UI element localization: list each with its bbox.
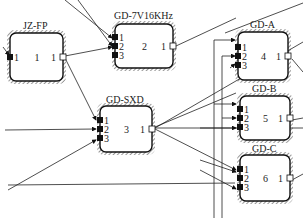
input-port[interactable] bbox=[112, 43, 118, 49]
connection[interactable] bbox=[8, 140, 96, 190]
input-port[interactable] bbox=[112, 52, 118, 58]
connection[interactable] bbox=[8, 183, 235, 185]
input-port[interactable] bbox=[237, 106, 243, 112]
output-label: 1 bbox=[140, 124, 145, 135]
output-port[interactable] bbox=[170, 43, 176, 49]
block-index: 4 bbox=[261, 51, 266, 62]
input-port[interactable] bbox=[235, 44, 241, 50]
port-label: 3 bbox=[104, 133, 109, 144]
input-port[interactable] bbox=[237, 184, 243, 190]
block-gdb[interactable]: GD-B12351 bbox=[237, 83, 293, 143]
block-title: GD-SXD bbox=[106, 94, 144, 105]
block-title: GD-C bbox=[252, 143, 277, 154]
input-port[interactable] bbox=[97, 117, 103, 123]
input-port[interactable] bbox=[235, 62, 241, 68]
input-port[interactable] bbox=[237, 166, 243, 172]
output-label: 1 bbox=[278, 173, 283, 184]
output-label: 1 bbox=[51, 52, 56, 63]
block-gdsxd[interactable]: GD-SXD12331 bbox=[97, 94, 155, 155]
output-port[interactable] bbox=[287, 175, 293, 181]
block-index: 3 bbox=[124, 124, 129, 135]
block-title: GD-7V16KHz bbox=[114, 10, 173, 21]
block-title: GD-A bbox=[250, 19, 276, 30]
input-port[interactable] bbox=[97, 135, 103, 141]
input-port[interactable] bbox=[237, 115, 243, 121]
input-port[interactable] bbox=[235, 53, 241, 59]
output-port[interactable] bbox=[285, 53, 291, 59]
input-port[interactable] bbox=[7, 54, 13, 60]
diagram-canvas: JZ-FP111GD-7V16KHz12321GD-A12341GD-SXD12… bbox=[0, 0, 303, 218]
output-port[interactable] bbox=[287, 115, 293, 121]
connection[interactable] bbox=[155, 129, 236, 170]
port-label: 3 bbox=[242, 60, 247, 71]
output-label: 1 bbox=[276, 51, 281, 62]
input-port[interactable] bbox=[237, 175, 243, 181]
connection[interactable] bbox=[78, 0, 112, 46]
block-gdc[interactable]: GD-C12361 bbox=[237, 143, 293, 204]
block-gda[interactable]: GD-A12341 bbox=[235, 19, 291, 83]
block-gd7v[interactable]: GD-7V16KHz12321 bbox=[112, 10, 176, 71]
block-title: GD-B bbox=[252, 83, 277, 94]
connection[interactable] bbox=[155, 93, 236, 127]
connection[interactable] bbox=[5, 129, 96, 130]
connection[interactable] bbox=[65, 58, 96, 120]
input-port[interactable] bbox=[112, 34, 118, 40]
connection[interactable] bbox=[65, 47, 112, 56]
port-label: 1 bbox=[14, 52, 19, 63]
port-label: 3 bbox=[244, 122, 249, 133]
block-index: 1 bbox=[35, 52, 40, 63]
block-index: 2 bbox=[142, 41, 147, 52]
output-port[interactable] bbox=[149, 126, 155, 132]
block-index: 6 bbox=[263, 173, 268, 184]
block-jzfp[interactable]: JZ-FP111 bbox=[7, 20, 66, 84]
block-index: 5 bbox=[263, 113, 268, 124]
input-port[interactable] bbox=[237, 124, 243, 130]
port-label: 3 bbox=[244, 182, 249, 193]
connection[interactable] bbox=[65, 0, 112, 38]
block-title: JZ-FP bbox=[23, 20, 48, 31]
output-port[interactable] bbox=[60, 54, 66, 60]
output-label: 1 bbox=[161, 41, 166, 52]
port-label: 3 bbox=[119, 50, 124, 61]
input-port[interactable] bbox=[97, 126, 103, 132]
output-label: 1 bbox=[278, 113, 283, 124]
